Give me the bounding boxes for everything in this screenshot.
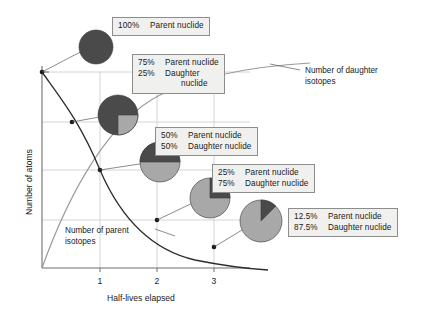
callout-percent: 25% [138, 69, 165, 80]
callout-100-parent: 100% Parent nuclide [112, 17, 210, 36]
x-tick-label-1: 1 [90, 276, 110, 286]
plot-area [0, 0, 427, 315]
callout-50-parent: 50% Parent nuclide 50% Daughter nuclide [155, 127, 258, 156]
parent-curve-label: Number of parent isotopes [65, 225, 129, 247]
x-tick-label-3: 3 [204, 276, 224, 286]
parent-curve-markers [40, 70, 217, 250]
callout-percent: 75% [138, 58, 165, 69]
callout-nuclide-label: Daughter nuclide [328, 223, 392, 234]
callout-line: 12.5% Parent nuclide [294, 212, 392, 223]
y-axis-title: Number of atoms [24, 149, 34, 215]
callout-nuclide-label: Daughter nuclide [245, 179, 309, 190]
callout-percent: 75% [218, 179, 245, 190]
pie-chart-100-parent [79, 30, 113, 64]
parent-curve-label-line1: Number of parent [65, 225, 129, 236]
callout-line: 25% Daughter [138, 69, 219, 80]
callout-nuclide-label: Parent nuclide [188, 131, 242, 142]
callout-percent: 50% [161, 142, 188, 153]
leader-50 [100, 163, 146, 170]
callout-nuclide-label: Parent nuclide [245, 168, 299, 179]
callout-75-parent: 75% Parent nuclide 25% Daughter nuclide [132, 54, 225, 94]
leader-parent-label [155, 229, 175, 236]
callout-nuclide-label: Parent nuclide [150, 21, 204, 32]
callout-line: 50% Daughter nuclide [161, 142, 252, 153]
x-axis-title: Half-lives elapsed [107, 293, 175, 303]
callout-line: 87.5% Daughter nuclide [294, 223, 392, 234]
callout-25-parent: 25% Parent nuclide 75% Daughter nuclide [212, 164, 315, 193]
callout-percent: 25% [218, 168, 245, 179]
daughter-curve-label-line2: isotopes [305, 76, 378, 87]
callout-nuclide-label: Daughter nuclide [188, 142, 252, 153]
callout-nuclide-label: Parent nuclide [165, 58, 219, 69]
x-tick-marks [100, 268, 214, 272]
callout-percent: 87.5% [294, 223, 328, 234]
daughter-curve-label-line1: Number of daughter [305, 65, 378, 76]
decay-curve-figure: 100% Parent nuclide 75% Parent nuclide 2… [0, 0, 427, 315]
callout-line: 50% Parent nuclide [161, 131, 252, 142]
callout-nuclide-label: Daughter [165, 69, 199, 80]
callout-percent: 50% [161, 131, 188, 142]
parent-curve-label-line2: isotopes [65, 236, 129, 247]
callout-nuclide-label: nuclide [165, 79, 208, 90]
x-tick-label-2: 2 [147, 276, 167, 286]
pie-chart-75-parent [98, 95, 138, 135]
pie-chart-12.5-parent [240, 200, 282, 242]
callout-line: nuclide [138, 79, 219, 90]
callout-percent [138, 79, 165, 90]
callout-line: 75% Parent nuclide [138, 58, 219, 69]
callout-line: 75% Daughter nuclide [218, 179, 309, 190]
daughter-curve-label: Number of daughter isotopes [305, 65, 378, 87]
callout-line: 25% Parent nuclide [218, 168, 309, 179]
callout-line: 100% Parent nuclide [118, 21, 204, 32]
callout-nuclide-label: Parent nuclide [328, 212, 382, 223]
callout-12.5-parent: 12.5% Parent nuclide 87.5% Daughter nucl… [288, 208, 398, 237]
callout-percent: 100% [118, 21, 150, 32]
callout-percent: 12.5% [294, 212, 328, 223]
